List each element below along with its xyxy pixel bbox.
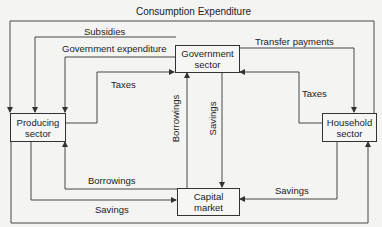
capital-market-line1: Capital (194, 191, 224, 202)
capital-market-line2: market (194, 202, 223, 213)
producing-sector-line2: sector (25, 128, 51, 139)
producing-sector-line1: Producing (17, 117, 60, 128)
producing-sector-box: Producingsector (10, 113, 66, 142)
taxes-household-label: Taxes (302, 88, 327, 99)
gov-expenditure-label: Government expenditure (62, 43, 167, 54)
savings-producing-arrow (31, 141, 176, 200)
government-sector-line1: Government (181, 48, 233, 59)
household-sector-line2: sector (337, 128, 363, 139)
savings-household-label: Savings (275, 185, 309, 196)
household-sector-box: Householdsector (322, 113, 377, 142)
subsidies-label: Subsidies (84, 26, 125, 37)
consumption-expenditure-label: Consumption Expenditure (136, 6, 251, 17)
household-sector-line1: Household (327, 117, 372, 128)
savings-producing-label: Savings (95, 204, 129, 215)
government-sector-line2: sector (195, 59, 221, 70)
transfer-payments-label: Transfer payments (255, 36, 334, 47)
capital-market-box: Capitalmarket (177, 188, 240, 216)
taxes-producing-label: Taxes (111, 79, 136, 90)
savings-gov-label: Savings (207, 102, 218, 136)
transfer-payments-arrow (239, 48, 354, 112)
borrowings-producing-label: Borrowings (88, 175, 136, 186)
borrowings-gov-label: Borrowings (170, 95, 181, 143)
government-sector-box: Governmentsector (175, 45, 240, 73)
